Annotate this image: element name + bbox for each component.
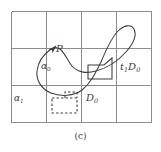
dashed-rectangle-shape xyxy=(52,98,77,113)
label-d-base: D xyxy=(128,61,136,72)
solid-rectangle-shape xyxy=(88,58,112,79)
label-alpha-zero: α0 xyxy=(41,62,51,72)
label-alpha-one-sub: 1 xyxy=(20,98,24,104)
label-point-p: P xyxy=(56,44,63,54)
figure-container: P α0 α1 D0 t1D0 (c) xyxy=(0,0,161,152)
label-d-zero-sub: 0 xyxy=(94,97,98,105)
label-d-zero-base: D xyxy=(86,92,94,103)
label-t-d-zero: t1D0 xyxy=(120,62,140,73)
figure-caption: (c) xyxy=(0,131,161,141)
label-alpha-zero-sub: 0 xyxy=(47,66,51,72)
figure-graphics xyxy=(0,0,161,152)
solid-rectangle-box xyxy=(88,58,112,79)
label-d-sub: 0 xyxy=(136,66,140,74)
label-p-text: P xyxy=(56,43,63,54)
label-d-zero: D0 xyxy=(86,93,98,104)
label-alpha-one: α1 xyxy=(14,94,24,104)
